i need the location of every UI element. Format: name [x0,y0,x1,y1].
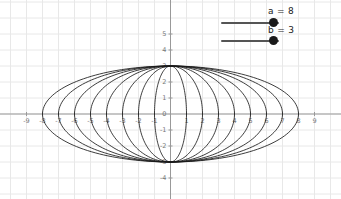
y-tick-label: 2 [162,78,166,86]
slider-panel: a = 8 b = 3 [219,8,329,46]
tick-labels: -9-8-7-6-5-4-3-2-1123456789-4-3-2-101234… [23,30,316,182]
y-tick-label: 1 [162,94,166,102]
y-tick-label: 0 [162,110,166,118]
slider-b[interactable]: b = 3 [219,33,329,49]
graphing-applet: -9-8-7-6-5-4-3-2-1123456789-4-3-2-101234… [0,0,341,199]
y-tick-label: 4 [162,46,166,54]
y-tick-label: 5 [162,30,166,38]
slider-b-label: b = 3 [268,25,294,35]
x-tick-label: -9 [23,117,29,125]
y-tick-label: -4 [160,174,166,182]
slider-b-handle[interactable] [269,36,278,45]
y-tick-label: -1 [160,126,166,134]
slider-a-label: a = 8 [268,6,294,16]
x-tick-label: 9 [312,117,316,125]
y-tick-label: -2 [160,142,166,150]
